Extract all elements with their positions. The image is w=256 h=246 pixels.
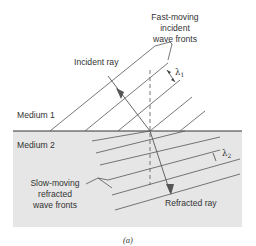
incident-ray-label: Incident ray [74,57,119,67]
figure-caption: (a) [123,235,133,245]
slow-label-2: refracted [38,189,72,199]
fast-label-3: wave fronts [152,34,197,44]
slow-label-3: wave fronts [32,200,77,210]
refracted-ray-label: Refracted ray [165,198,217,208]
lambda1-label: λ1 [175,67,184,78]
medium1-label: Medium 1 [17,110,55,120]
incident-ray [108,76,150,131]
medium2-label: Medium 2 [17,140,55,150]
refraction-diagram: Fast-moving incident wave fronts Inciden… [0,0,256,246]
incident-ray-arrow-icon [116,88,124,99]
fast-label-2: incident [160,23,190,33]
fast-wavefront-pointer [155,42,172,60]
slow-label-1: Slow-moving [30,178,79,188]
fast-label-1: Fast-moving [151,12,198,22]
